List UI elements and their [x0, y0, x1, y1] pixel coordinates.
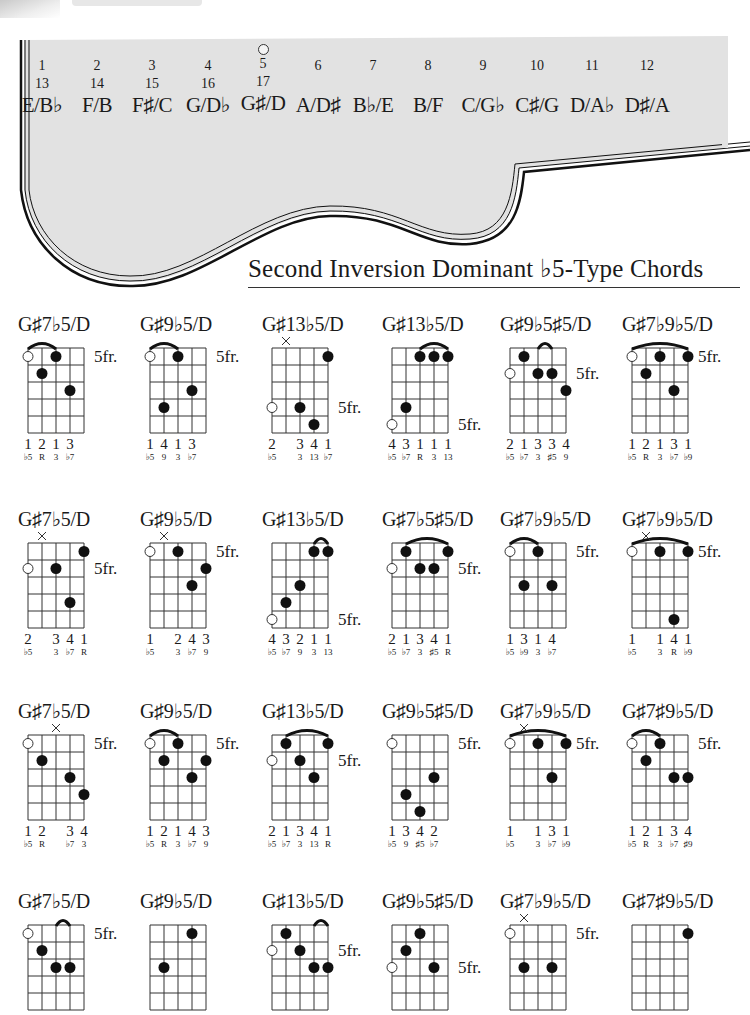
finger-number: 2: [171, 631, 185, 647]
finger-number: 2: [157, 823, 171, 839]
fret-number: 10: [507, 57, 567, 75]
finger-dot-icon: [173, 546, 184, 557]
fret-position-10: 10 C♯/G: [507, 57, 567, 117]
muted-string-icon: [52, 724, 60, 732]
finger-dot-icon: [655, 546, 666, 557]
fret-number-octave: 16: [178, 75, 238, 93]
finger-dot-icon: [51, 351, 62, 362]
finger-number: 3: [63, 823, 77, 839]
finger-dot-icon: [683, 546, 694, 557]
finger-dot-icon: [79, 789, 90, 800]
finger-dot-icon: [37, 368, 48, 379]
interval-label: ♭5: [142, 647, 158, 657]
interval-label: R: [320, 839, 336, 849]
finger-number: 1: [441, 436, 455, 452]
finger-number: 4: [307, 436, 321, 452]
finger-dot-icon: [443, 351, 454, 362]
finger-dot-icon: [281, 597, 292, 608]
chord-diagram: G♯13♭5/D5fr.43111♭5♭7R313: [382, 312, 502, 487]
muted-string-icon: [38, 532, 46, 540]
root-note-icon: [145, 547, 155, 557]
root-note-icon: [23, 739, 33, 749]
finger-number: 1: [531, 631, 545, 647]
finger-number: 1: [279, 823, 293, 839]
fret-position-7: 7 B♭/E: [343, 57, 403, 117]
finger-number: 2: [427, 823, 441, 839]
finger-number: 1: [653, 823, 667, 839]
fret-position-8: 8 B/F: [398, 57, 458, 117]
root-note-icon: [267, 946, 277, 956]
fret-position-label: 5fr.: [338, 751, 361, 771]
root-note-icon: [23, 352, 33, 362]
chord-grid-svg: [622, 889, 742, 1015]
interval-label: ♭9: [680, 452, 696, 462]
fret-position-label: 5fr.: [216, 542, 239, 562]
chord-grid-svg: [262, 889, 382, 1015]
interval-label: R: [76, 647, 92, 657]
finger-number: 4: [413, 823, 427, 839]
fret-position-label: 5fr.: [216, 347, 239, 367]
root-note-icon: [267, 403, 277, 413]
fret-number: 5: [233, 55, 293, 73]
finger-number: 3: [399, 823, 413, 839]
finger-dot-icon: [533, 546, 544, 557]
finger-dot-icon: [173, 738, 184, 749]
finger-dot-icon: [65, 385, 76, 396]
finger-dot-icon: [561, 385, 572, 396]
finger-number: 1: [427, 436, 441, 452]
finger-number: 4: [385, 436, 399, 452]
finger-number: 3: [199, 631, 213, 647]
fret-number-octave: 17: [233, 73, 293, 91]
fret-number: 11: [562, 57, 622, 75]
root-note-icon: [387, 420, 397, 430]
finger-number: 4: [559, 436, 573, 452]
finger-dot-icon: [547, 772, 558, 783]
chord-diagram: G♯7♭5/D5fr.1234♭5R♭73: [18, 699, 138, 874]
finger-dot-icon: [201, 563, 212, 574]
fret-position-label: 5fr.: [94, 734, 117, 754]
fret-position-label: 5fr.: [94, 924, 117, 944]
fret-note-map: 113E/B♭214F/B315F♯/C416G/D♭517G♯/D6 A/D♯…: [0, 0, 750, 120]
finger-number: 4: [185, 631, 199, 647]
fret-position-label: 5fr.: [338, 610, 361, 630]
fret-note-name: C♯/G: [507, 93, 567, 117]
chord-diagram: G♯7♭5/D5fr.2341♭53♭7R: [18, 507, 138, 682]
finger-dot-icon: [173, 351, 184, 362]
muted-string-icon: [282, 337, 290, 345]
finger-dot-icon: [159, 962, 170, 973]
fret-position-3: 315F♯/C: [122, 57, 182, 117]
root-note-icon: [505, 547, 515, 557]
finger-dot-icon: [309, 962, 320, 973]
interval-label: ♭5: [20, 647, 36, 657]
finger-number: 3: [413, 631, 427, 647]
finger-dot-icon: [159, 755, 170, 766]
finger-number: 1: [503, 823, 517, 839]
finger-dot-icon: [37, 755, 48, 766]
chord-diagram: G♯7♭5/D5fr.1213♭5R3♭7: [18, 312, 138, 487]
fret-number-octave: 13: [12, 75, 72, 93]
chord-diagram: G♯7♯9♭5/D5fr.12134♭5R3♭7♯9: [622, 699, 742, 874]
fret-position-6: 6 A/D♯: [288, 57, 348, 117]
muted-string-icon: [520, 914, 528, 922]
chord-diagram: G♯7♭9♭5/D5fr.1141♭53R♭9: [622, 507, 742, 682]
finger-number: 1: [653, 631, 667, 647]
finger-dot-icon: [401, 402, 412, 413]
interval-label: ♭5: [624, 647, 640, 657]
finger-number: 4: [681, 823, 695, 839]
finger-dot-icon: [655, 351, 666, 362]
finger-number: 1: [171, 436, 185, 452]
finger-number: 1: [21, 823, 35, 839]
finger-dot-icon: [295, 402, 306, 413]
finger-number: 3: [199, 823, 213, 839]
finger-dot-icon: [547, 368, 558, 379]
fret-number-octave: 15: [122, 75, 182, 93]
chord-diagram: G♯7♭9♭5/D5fr.12131♭5R3♭7♭9: [622, 312, 742, 487]
chord-diagram: G♯7♯9♭5/D: [622, 889, 742, 1015]
fret-number: 3: [122, 57, 182, 75]
fret-number: 12: [617, 57, 677, 75]
fret-note-name: C/G♭: [453, 93, 513, 117]
chord-diagram: G♯7♭5/D5fr.: [18, 889, 138, 1015]
finger-number: 1: [321, 436, 335, 452]
finger-dot-icon: [323, 546, 334, 557]
fret-number: 8: [398, 57, 458, 75]
